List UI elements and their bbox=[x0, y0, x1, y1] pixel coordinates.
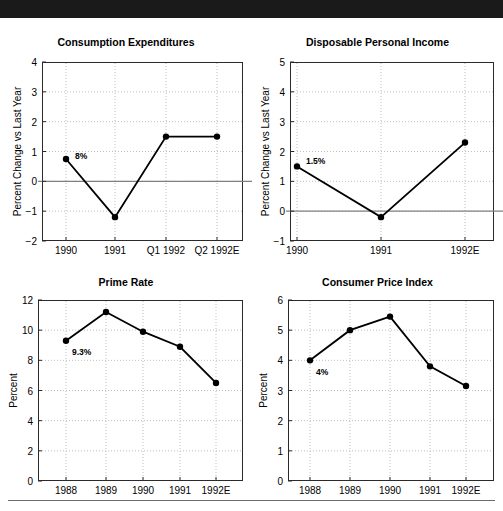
x-tick-label: 1989 bbox=[95, 485, 117, 496]
x-tick-label: 1990 bbox=[132, 485, 154, 496]
y-tick-label: 8 bbox=[11, 355, 33, 366]
y-tick-label: 3 bbox=[15, 86, 37, 97]
data-point-annotation: 9.3% bbox=[72, 347, 91, 357]
x-tick-label: 1990 bbox=[379, 485, 401, 496]
y-tick-label: 2 bbox=[11, 445, 33, 456]
y-tick-label: 2 bbox=[261, 415, 283, 426]
y-tick-label: 3 bbox=[263, 116, 285, 127]
y-tick-label: −1 bbox=[15, 206, 37, 217]
data-point-marker bbox=[387, 313, 393, 319]
data-point-marker bbox=[307, 357, 313, 363]
x-tick-label: 1992E bbox=[451, 245, 480, 256]
footer-divider bbox=[8, 500, 495, 501]
data-point-marker bbox=[63, 156, 69, 162]
series-line bbox=[310, 317, 466, 386]
y-tick-label: 1 bbox=[261, 445, 283, 456]
x-tick-label: 1988 bbox=[299, 485, 321, 496]
data-point-marker bbox=[140, 328, 146, 334]
data-point-marker bbox=[463, 383, 469, 389]
y-tick-label: 4 bbox=[11, 415, 33, 426]
y-tick-label: 2 bbox=[15, 116, 37, 127]
chart-canvas bbox=[0, 270, 252, 511]
chart-canvas bbox=[252, 270, 503, 511]
y-tick-label: 1 bbox=[15, 146, 37, 157]
data-point-marker bbox=[112, 214, 118, 220]
data-point-marker bbox=[427, 363, 433, 369]
chart-canvas bbox=[0, 30, 252, 270]
x-tick-label: 1991 bbox=[419, 485, 441, 496]
chart-panel-consumer-price-index: Consumer Price IndexPercent0123456198819… bbox=[252, 270, 503, 511]
y-tick-label: 3 bbox=[261, 385, 283, 396]
y-tick-label: 12 bbox=[11, 295, 33, 306]
y-tick-label: 5 bbox=[261, 325, 283, 336]
x-tick-label: 1990 bbox=[55, 245, 77, 256]
y-tick-label: 5 bbox=[263, 57, 285, 68]
y-tick-label: 6 bbox=[261, 295, 283, 306]
data-point-marker bbox=[347, 327, 353, 333]
data-point-annotation: 8% bbox=[75, 151, 87, 161]
chart-panel-disposable-personal-income: Disposable Personal IncomePercent Change… bbox=[252, 30, 503, 270]
y-tick-label: −2 bbox=[15, 236, 37, 247]
data-point-marker bbox=[214, 133, 220, 139]
y-tick-label: 0 bbox=[11, 476, 33, 487]
y-tick-label: 6 bbox=[11, 385, 33, 396]
x-tick-label: 1990 bbox=[286, 245, 308, 256]
x-tick-label: 1991 bbox=[104, 245, 126, 256]
series-line bbox=[66, 137, 217, 218]
x-tick-label: 1992E bbox=[202, 485, 231, 496]
y-tick-label: 4 bbox=[261, 355, 283, 366]
chart-panel-prime-rate: Prime RatePercent02468101219881989199019… bbox=[0, 270, 252, 511]
data-point-marker bbox=[63, 338, 69, 344]
x-tick-label: Q1 1992 bbox=[147, 245, 185, 256]
data-point-marker bbox=[163, 133, 169, 139]
exhibit-title-bar: EXHIBIT 5:U.S. Economic Overview bbox=[0, 0, 503, 18]
data-point-marker bbox=[177, 344, 183, 350]
x-tick-label: 1991 bbox=[370, 245, 392, 256]
y-tick-label: 0 bbox=[15, 176, 37, 187]
y-tick-label: 4 bbox=[263, 86, 285, 97]
x-tick-label: 1991 bbox=[169, 485, 191, 496]
data-point-marker bbox=[213, 380, 219, 386]
y-tick-label: 10 bbox=[11, 325, 33, 336]
x-tick-label: Q2 1992E bbox=[194, 245, 239, 256]
y-tick-label: 4 bbox=[15, 57, 37, 68]
chart-panel-consumption-expenditures: Consumption ExpendituresPercent Change v… bbox=[0, 30, 252, 270]
chart-canvas bbox=[252, 30, 503, 270]
data-point-annotation: 1.5% bbox=[306, 156, 325, 166]
y-tick-label: −1 bbox=[263, 236, 285, 247]
x-tick-label: 1992E bbox=[452, 485, 481, 496]
data-point-marker bbox=[378, 214, 384, 220]
data-point-marker bbox=[103, 309, 109, 315]
y-tick-label: 0 bbox=[263, 206, 285, 217]
data-point-marker bbox=[462, 139, 468, 145]
y-tick-label: 0 bbox=[261, 476, 283, 487]
y-tick-label: 1 bbox=[263, 176, 285, 187]
data-point-marker bbox=[294, 163, 300, 169]
data-point-annotation: 4% bbox=[316, 367, 328, 377]
x-tick-label: 1989 bbox=[339, 485, 361, 496]
x-tick-label: 1988 bbox=[55, 485, 77, 496]
y-tick-label: 2 bbox=[263, 146, 285, 157]
